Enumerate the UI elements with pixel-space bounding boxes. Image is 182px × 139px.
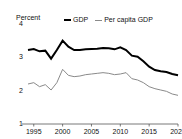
x-axis-tick-label: 2010	[107, 128, 133, 136]
x-axis-tick-label: 2005	[78, 128, 104, 136]
x-axis-tick-label: 1995	[21, 128, 47, 136]
series-line-gdp	[28, 41, 178, 76]
x-axis-tick-label: 2015	[136, 128, 162, 136]
y-axis-tick-label: 4	[9, 20, 23, 28]
y-axis-tick-label: 2	[9, 87, 23, 95]
x-axis-tick-label: 2020	[165, 128, 182, 136]
plot-area	[0, 0, 182, 139]
chart-container: Percent GDP Per capita GDP 4321 19952000…	[0, 0, 182, 139]
y-axis-tick-label: 1	[9, 120, 23, 128]
x-axis-tick-label: 2000	[50, 128, 76, 136]
y-axis-tick-label: 3	[9, 53, 23, 61]
series-line-per-capita-gdp	[28, 69, 178, 95]
